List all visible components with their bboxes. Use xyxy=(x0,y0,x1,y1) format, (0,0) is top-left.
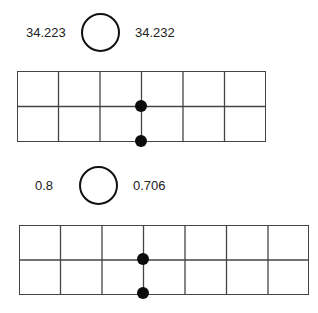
right-value: 0.706 xyxy=(133,179,166,192)
grid-2 xyxy=(19,225,309,295)
right-value: 34.232 xyxy=(135,26,175,39)
marker-dot[interactable] xyxy=(137,253,149,265)
marker-dot[interactable] xyxy=(135,135,147,147)
marker-dot[interactable] xyxy=(135,100,147,112)
left-value: 0.8 xyxy=(35,179,53,192)
comparison-circle[interactable] xyxy=(81,13,120,52)
marker-dot[interactable] xyxy=(137,287,149,299)
comparison-circle[interactable] xyxy=(79,166,118,205)
left-value: 34.223 xyxy=(26,26,66,39)
grid-lines xyxy=(19,225,309,295)
